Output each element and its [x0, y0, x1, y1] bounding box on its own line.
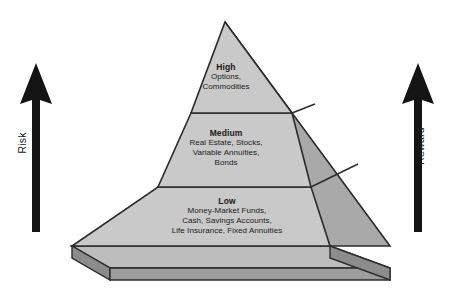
tier-title-high: High — [164, 62, 288, 72]
tier-title-low: Low — [118, 196, 336, 206]
pyramid-base-slab — [72, 246, 390, 280]
tier-label-low: Low Money-Market Funds, Cash, Savings Ac… — [118, 196, 336, 236]
diagram-canvas: High Options, Commodities Medium Real Es… — [0, 0, 457, 293]
tier-item-medium-1: Variable Annuities, — [150, 148, 302, 158]
tier-item-medium-0: Real Estate, Stocks, — [150, 138, 302, 148]
risk-axis-label: Risk — [16, 113, 28, 173]
tier-item-low-0: Money-Market Funds, — [118, 206, 336, 216]
tier-item-low-1: Cash, Savings Accounts, — [118, 216, 336, 226]
tier-label-medium: Medium Real Estate, Stocks, Variable Ann… — [150, 128, 302, 168]
tier-item-high-0: Options, — [164, 72, 288, 82]
tier-item-medium-2: Bonds — [150, 158, 302, 168]
tier-label-high: High Options, Commodities — [164, 62, 288, 92]
tier-title-medium: Medium — [150, 128, 302, 138]
tier-item-high-1: Commodities — [164, 82, 288, 92]
reward-axis-label: Reward — [414, 114, 426, 178]
tier-item-low-2: Life Insurance, Fixed Annuities — [118, 226, 336, 236]
